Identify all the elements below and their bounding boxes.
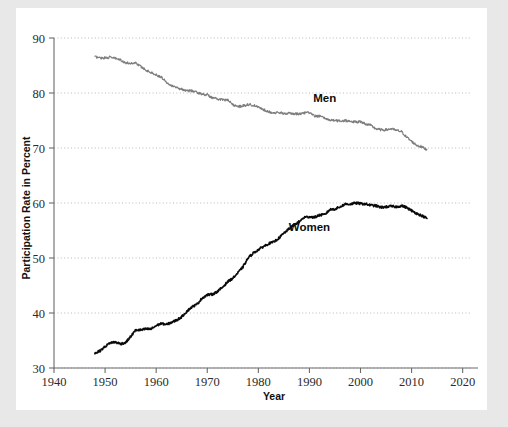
y-tick-label: 70 (33, 142, 46, 156)
y-tick-label: 40 (33, 307, 46, 321)
y-tick-label-group: 30405060708090 (33, 32, 46, 376)
y-tick-label: 80 (33, 87, 46, 101)
line-chart: 30405060708090 1940195019601970198019902… (16, 8, 487, 410)
y-axis-title: Participation Rate in Percent (20, 136, 32, 279)
y-tick-label: 60 (33, 197, 46, 211)
x-tick-label: 1970 (195, 375, 220, 389)
series-label-women: Women (289, 221, 330, 233)
x-tick-label: 1950 (93, 375, 118, 389)
gridline-group (54, 38, 472, 368)
x-tick-label: 1980 (246, 375, 271, 389)
series-label-men: Men (313, 92, 336, 104)
x-tick-label: 1940 (42, 375, 67, 389)
y-tick-label: 90 (33, 32, 46, 46)
x-tick-label: 1960 (144, 375, 169, 389)
x-axis-title: Year (263, 390, 285, 402)
series-line-men (95, 56, 427, 150)
x-tick-label: 1990 (297, 375, 322, 389)
x-tick-label: 2000 (348, 375, 373, 389)
y-tick-label: 30 (33, 362, 46, 376)
x-tick-label-group: 194019501960197019801990200020102020 (42, 375, 476, 389)
x-tick-label: 2020 (450, 375, 475, 389)
x-tick-label: 2010 (399, 375, 424, 389)
y-tick-label: 50 (33, 252, 46, 266)
series-line-women (95, 202, 427, 354)
figure-panel: 30405060708090 1940195019601970198019902… (16, 8, 487, 410)
